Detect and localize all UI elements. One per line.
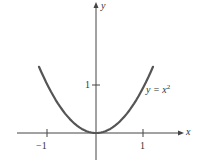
curve-label-exp: 2 — [167, 83, 171, 91]
y-axis-arrow-icon — [94, 2, 99, 8]
curve-label-eq: = x — [150, 84, 166, 95]
x-tick-label-pos1: 1 — [140, 141, 145, 151]
y-tick-label-1: 1 — [85, 80, 90, 90]
x-tick-label-neg1: −1 — [36, 141, 47, 151]
curve-label: y = x2 — [146, 84, 170, 95]
x-axis-label: x — [186, 127, 190, 137]
x-axis-arrow-icon — [178, 131, 184, 136]
y-axis-label: y — [101, 1, 105, 11]
